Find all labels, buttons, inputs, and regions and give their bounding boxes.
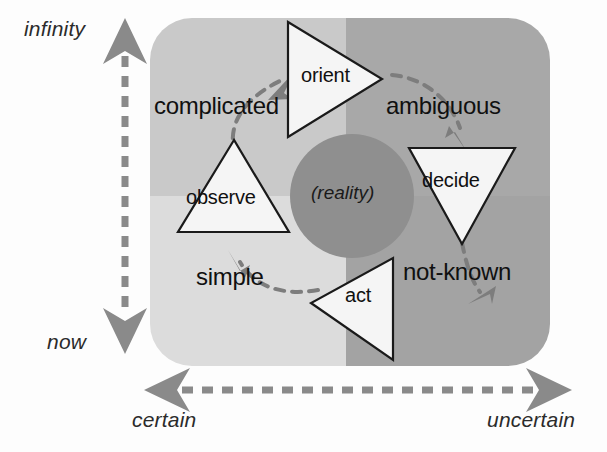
axis-label-now: now	[47, 330, 86, 354]
node-label-orient: orient	[301, 64, 350, 87]
reality-label: (reality)	[311, 182, 374, 204]
horizontal-axis	[144, 368, 572, 412]
transition-label-complicated: complicated	[154, 92, 279, 120]
vertical-axis-arrowhead-down	[103, 308, 147, 354]
node-label-observe: observe	[186, 186, 256, 209]
ooda-quadrant-diagram: infinity now certain uncertain complicat…	[0, 0, 607, 452]
transition-label-not-known: not-known	[403, 258, 511, 286]
axis-label-certain: certain	[132, 408, 196, 432]
axis-label-uncertain: uncertain	[487, 408, 575, 432]
node-label-decide: decide	[422, 169, 480, 192]
transition-label-simple: simple	[196, 263, 264, 291]
transition-label-ambiguous: ambiguous	[386, 92, 501, 120]
node-label-act: act	[345, 284, 371, 307]
axis-label-infinity: infinity	[24, 17, 85, 41]
vertical-axis	[103, 18, 147, 354]
